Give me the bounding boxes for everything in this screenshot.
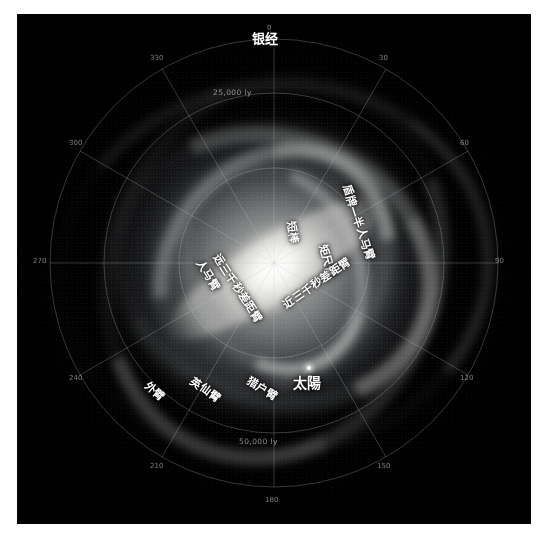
sun-marker <box>307 366 311 370</box>
angle-tick-150: 150 <box>377 462 390 470</box>
angle-tick-60: 60 <box>460 139 469 147</box>
label-sun: 太陽 <box>293 372 321 392</box>
angle-tick-180: 180 <box>265 496 278 504</box>
angle-tick-120: 120 <box>460 374 473 382</box>
radial-ring-label-25000: 25,000 ly <box>213 88 252 97</box>
angle-tick-330: 330 <box>150 54 163 62</box>
figure-title: 银经 <box>252 28 278 47</box>
angle-tick-90: 90 <box>495 257 504 265</box>
polar-grid <box>17 14 531 524</box>
radial-ring-label-50000: 50,000 ly <box>239 437 278 446</box>
angle-tick-300: 300 <box>69 139 82 147</box>
angle-tick-210: 210 <box>150 462 163 470</box>
angle-tick-270: 270 <box>33 257 46 265</box>
galaxy-map-figure: 25,000 ly 50,000 ly 0 30 60 90 120 150 1… <box>0 0 550 539</box>
galaxy-image-plate: 25,000 ly 50,000 ly 0 30 60 90 120 150 1… <box>17 14 531 524</box>
angle-tick-240: 240 <box>69 374 82 382</box>
angle-tick-30: 30 <box>379 54 388 62</box>
